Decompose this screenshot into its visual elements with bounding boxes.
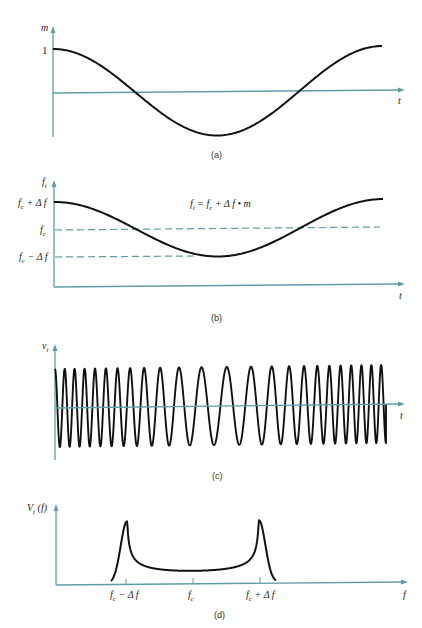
caption-d: (d)	[214, 610, 225, 620]
x-label-t: t	[400, 410, 403, 421]
panel-d: Vt (f) fc − Δ f fc fc + Δ f f (d)	[27, 502, 408, 620]
panel-a: m 1 t (a)	[41, 22, 405, 160]
y-label-Vt: Vt (f)	[27, 502, 48, 516]
x-axis-b	[54, 284, 400, 287]
y-arrow-icon	[53, 344, 58, 351]
x-axis-a	[53, 90, 400, 93]
caption-b: (b)	[211, 313, 222, 323]
caption-c: (c)	[212, 471, 223, 481]
level-fc-plus-df: fc + Δ f	[18, 197, 48, 211]
y-arrow-icon	[51, 26, 56, 33]
panel-c: vt t (c)	[42, 340, 405, 481]
y-tick-1: 1	[42, 44, 48, 56]
y-label-ft: ft	[42, 176, 48, 190]
x-label-f: f	[403, 589, 407, 600]
panel-b: ft fc + Δ f fc fc − Δ f ft = fc + Δ f • …	[18, 176, 405, 323]
fc-dashed-line	[55, 227, 380, 230]
x-arrow-icon	[398, 282, 405, 287]
x-arrow-icon	[401, 580, 408, 585]
y-label-vt: vt	[42, 340, 49, 354]
fm-diagram: m 1 t (a) ft fc + Δ f fc fc − Δ f ft = f…	[0, 0, 422, 628]
x-axis-d	[56, 582, 403, 585]
equation-ft: ft = fc + Δ f • m	[190, 198, 251, 212]
x-arrow-icon	[398, 88, 405, 93]
level-fc: fc	[40, 224, 47, 238]
y-arrow-icon	[54, 504, 59, 511]
x-label-t: t	[399, 290, 402, 301]
tick-label-fc-plus-df: fc + Δ f	[246, 589, 276, 603]
y-arrow-icon	[52, 180, 57, 187]
fc-minus-df-dashed-line	[55, 256, 196, 257]
y-label-m: m	[41, 22, 48, 33]
level-fc-minus-df: fc − Δ f	[19, 251, 49, 265]
x-arrow-icon	[398, 402, 405, 407]
tick-label-fc-minus-df: fc − Δ f	[110, 589, 140, 603]
caption-a: (a)	[211, 150, 222, 160]
tick-label-fc: fc	[188, 589, 195, 603]
spectrum-curve	[111, 520, 276, 581]
x-label-t: t	[398, 95, 401, 106]
